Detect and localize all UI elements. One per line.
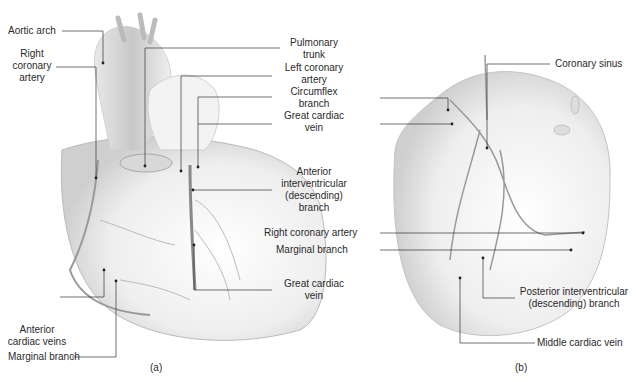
label-right-coronary-artery-b: Right coronary artery — [264, 227, 357, 239]
label-line: artery — [10, 72, 54, 84]
caption-a: (a) — [150, 362, 162, 374]
label-circumflex-branch: Circumflex branch — [275, 86, 353, 110]
label-marginal-branch-a: Marginal branch — [8, 351, 80, 363]
label-line: Great cardiac — [275, 278, 353, 290]
label-great-cardiac-vein-top: Great cardiac vein — [275, 110, 353, 134]
label-line: interventricular — [272, 178, 356, 190]
label-line: Pulmonary — [282, 37, 346, 49]
label-posterior-interventricular-branch: Posterior interventricular (descending) … — [512, 286, 636, 310]
label-line: trunk — [282, 49, 346, 61]
caption-b: (b) — [515, 362, 527, 374]
label-line: Left coronary — [275, 62, 353, 74]
label-line: artery — [275, 74, 353, 86]
label-line: (descending) branch — [512, 298, 636, 310]
label-line: (descending) — [272, 190, 356, 202]
label-anterior-interventricular-branch: Anterior interventricular (descending) b… — [272, 166, 356, 214]
label-pulmonary-trunk: Pulmonary trunk — [282, 37, 346, 61]
label-line: branch — [272, 202, 356, 214]
label-line: Anterior — [272, 166, 356, 178]
label-marginal-branch-b: Marginal branch — [276, 244, 348, 256]
label-line: Right — [10, 48, 54, 60]
pulmonary-trunk-a — [148, 75, 219, 150]
label-aortic-arch: Aortic arch — [8, 25, 56, 37]
label-anterior-cardiac-veins: Anterior cardiac veins — [6, 324, 68, 348]
label-right-coronary-artery: Right coronary artery — [10, 48, 54, 84]
label-line: Anterior — [6, 324, 68, 336]
vessel-stub-b2 — [554, 125, 570, 135]
label-great-cardiac-vein-bottom: Great cardiac vein — [275, 278, 353, 302]
label-line: vein — [275, 290, 353, 302]
label-line: cardiac veins — [6, 336, 68, 348]
label-line: vein — [275, 122, 353, 134]
label-line: Posterior interventricular — [512, 286, 636, 298]
label-line: coronary — [10, 60, 54, 72]
pulmonary-opening-a — [120, 154, 172, 172]
vessel-stub-b1 — [571, 96, 579, 114]
label-middle-cardiac-vein: Middle cardiac vein — [537, 337, 623, 349]
label-line: Circumflex — [275, 86, 353, 98]
label-left-coronary-artery: Left coronary artery — [275, 62, 353, 86]
label-coronary-sinus: Coronary sinus — [555, 58, 622, 70]
label-line: Great cardiac — [275, 110, 353, 122]
label-line: branch — [275, 98, 353, 110]
